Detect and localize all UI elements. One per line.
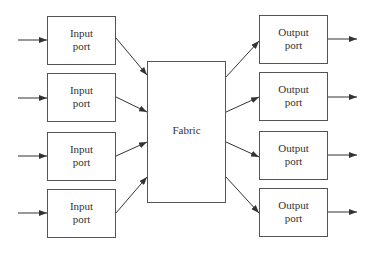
- input-port-label-2: Input port: [47, 84, 116, 110]
- fabric-to-output-arrow-1: [226, 41, 259, 77]
- input-port-label-3: Input port: [47, 143, 116, 169]
- label-line: port: [47, 156, 116, 169]
- label-line: port: [259, 155, 328, 168]
- label-line: Output: [259, 83, 328, 96]
- label-line: Input: [47, 27, 116, 40]
- label-line: Input: [47, 143, 116, 156]
- fabric-label: Fabric: [147, 124, 226, 137]
- label-line: port: [259, 212, 328, 225]
- label-line: Output: [259, 26, 328, 39]
- label-line: Output: [259, 199, 328, 212]
- label-line: port: [47, 40, 116, 53]
- label-line: port: [259, 96, 328, 109]
- input-port-label-1: Input port: [47, 27, 116, 53]
- fabric-to-output-arrow-3: [226, 142, 259, 157]
- label-line: Output: [259, 142, 328, 155]
- input-to-fabric-arrow-2: [116, 97, 147, 112]
- fabric-to-output-arrow-4: [226, 177, 259, 213]
- label-line: Fabric: [147, 124, 226, 137]
- label-line: port: [47, 213, 116, 226]
- output-port-label-2: Output port: [259, 83, 328, 109]
- input-port-label-4: Input port: [47, 200, 116, 226]
- fabric-to-output-arrow-2: [226, 97, 259, 112]
- label-line: port: [47, 97, 116, 110]
- input-to-fabric-arrow-4: [116, 177, 147, 213]
- input-to-fabric-arrow-3: [116, 142, 147, 156]
- label-line: Input: [47, 200, 116, 213]
- label-line: port: [259, 39, 328, 52]
- output-port-label-4: Output port: [259, 199, 328, 225]
- output-port-label-3: Output port: [259, 142, 328, 168]
- input-to-fabric-arrow-1: [116, 38, 147, 75]
- output-port-label-1: Output port: [259, 26, 328, 52]
- label-line: Input: [47, 84, 116, 97]
